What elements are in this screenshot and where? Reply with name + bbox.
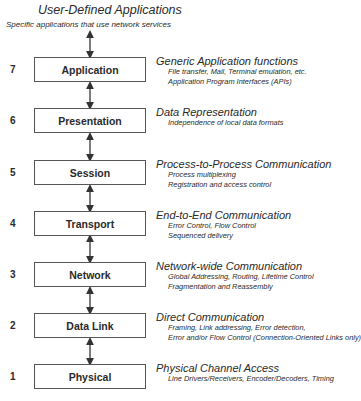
layer-detail: Error and/or Flow Control (Connection-Or…	[168, 333, 361, 343]
layer-box-session: Session	[34, 160, 146, 185]
layer-heading: End-to-End Communication	[156, 209, 291, 221]
layer-box-data-link: Data Link	[34, 313, 146, 338]
layer-heading: Process-to-Process Communication	[156, 158, 331, 170]
layer-heading: Network-wide Communication	[156, 260, 314, 272]
layer-box-physical: Physical	[34, 364, 146, 389]
layer-number: 4	[10, 218, 22, 229]
layer-detail: Global Addressing, Routing, Lifetime Con…	[168, 272, 314, 282]
layer-detail: Error Control, Flow Control	[168, 221, 291, 231]
layer-description-transport: End-to-End Communication Error Control, …	[156, 209, 291, 240]
layer-detail: Independence of local data formats	[168, 118, 283, 128]
layer-heading: Physical Channel Access	[156, 362, 334, 374]
layer-detail: Registration and access control	[168, 180, 331, 190]
layer-description-physical: Physical Channel Access Line Drivers/Rec…	[156, 362, 334, 384]
layer-number: 7	[10, 64, 22, 75]
layer-description-network: Network-wide Communication Global Addres…	[156, 260, 314, 291]
layer-heading: Data Representation	[156, 106, 283, 118]
layer-box-transport: Transport	[34, 211, 146, 236]
layer-box-network: Network	[34, 262, 146, 287]
layer-detail: File transfer, Mail, Terminal emulation,…	[168, 67, 307, 77]
layer-detail: Fragmentation and Reassembly	[168, 282, 314, 292]
layer-detail: Process multiplexing	[168, 170, 331, 180]
layer-detail: Sequenced delivery	[168, 231, 291, 241]
layer-number: 2	[10, 320, 22, 331]
layer-number: 1	[10, 371, 22, 382]
layer-number: 5	[10, 167, 22, 178]
layer-heading: Direct Communication	[156, 311, 361, 323]
layer-detail: Application Program Interfaces (APIs)	[168, 77, 307, 87]
layer-number: 3	[10, 269, 22, 280]
layer-description-presentation: Data Representation Independence of loca…	[156, 106, 283, 128]
layer-description-application: Generic Application functions File trans…	[156, 55, 307, 86]
layer-detail: Framing, Link addressing, Error detectio…	[168, 323, 361, 333]
layer-box-presentation: Presentation	[34, 108, 146, 133]
layer-heading: Generic Application functions	[156, 55, 307, 67]
layer-box-application: Application	[34, 57, 146, 82]
layer-detail: Line Drivers/Receivers, Encoder/Decoders…	[168, 374, 334, 384]
layer-number: 6	[10, 115, 22, 126]
layer-description-session: Process-to-Process Communication Process…	[156, 158, 331, 189]
layer-description-data-link: Direct Communication Framing, Link addre…	[156, 311, 361, 342]
